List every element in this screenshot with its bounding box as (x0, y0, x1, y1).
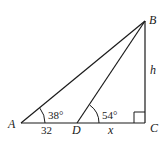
triangle-diagram: A B C D h 32 x 38° 54° (0, 0, 167, 145)
vertex-label-c: C (150, 121, 159, 135)
segment-db (77, 21, 145, 123)
segment-ab (21, 21, 145, 123)
angle-label-a: 38° (48, 109, 63, 121)
side-label-ad: 32 (41, 124, 52, 136)
side-label-h: h (150, 63, 156, 77)
right-angle-marker (134, 112, 145, 123)
angle-label-d: 54° (102, 109, 117, 121)
vertex-label-b: B (149, 13, 157, 27)
vertex-label-a: A (7, 117, 16, 131)
angle-arc-a (40, 108, 45, 123)
vertex-label-d: D (71, 123, 81, 137)
angle-arc-d (90, 105, 99, 123)
side-label-x: x (107, 123, 114, 137)
